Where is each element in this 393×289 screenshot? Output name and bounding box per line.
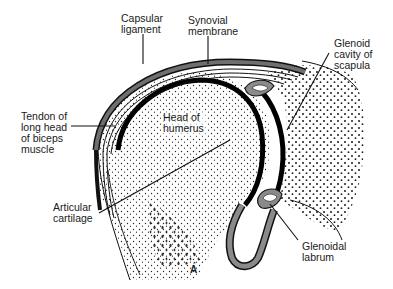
- superior-labrum: [245, 80, 274, 96]
- inferior-labrum: [258, 189, 282, 208]
- label-glenoid-cavity: Glenoid cavity of scapula: [334, 37, 375, 71]
- panel-letter: A: [190, 264, 197, 275]
- label-synovial-membrane: Synovial membrane: [188, 14, 238, 37]
- label-head-of-humerus: Head of humerus: [163, 111, 204, 134]
- shoulder-joint-diagram: Capsular ligament Synovial membrane Glen…: [0, 0, 393, 289]
- leader-glenoidal-labrum: [270, 204, 298, 240]
- humerus: [98, 72, 270, 280]
- label-glenoidal-labrum: Glenoidal labrum: [302, 240, 349, 263]
- label-articular-cartilage: Articular cartilage: [53, 201, 94, 224]
- label-tendon-biceps: Tendon of long head of biceps muscle: [21, 110, 70, 155]
- label-capsular-ligament: Capsular ligament: [121, 12, 166, 35]
